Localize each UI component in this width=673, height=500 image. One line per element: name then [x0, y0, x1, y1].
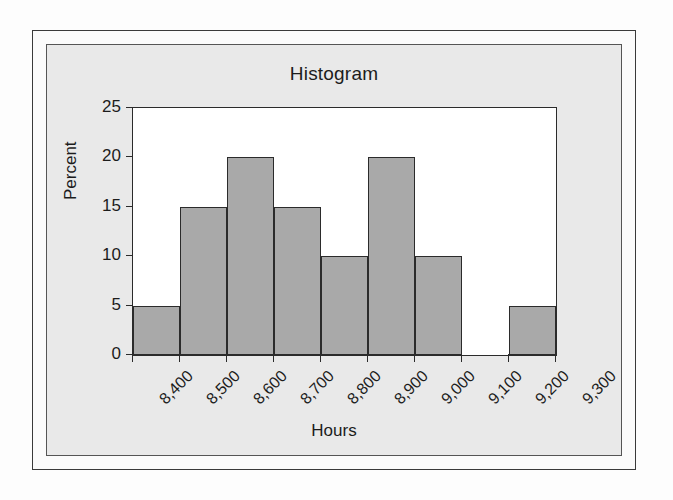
- x-axis-tick: [367, 354, 368, 362]
- x-axis-tick: [414, 354, 415, 362]
- x-axis-tick-label: 8,900: [391, 367, 432, 408]
- histogram-bar: [133, 306, 180, 355]
- x-axis-tick-label: 8,700: [297, 367, 338, 408]
- x-axis-tick-label: 8,600: [250, 367, 291, 408]
- x-axis-tick-label: 9,300: [579, 367, 620, 408]
- histogram-bars: [133, 108, 556, 355]
- plot-area: [132, 107, 557, 356]
- histogram-bar: [368, 157, 415, 355]
- y-axis-tick-label: 10: [81, 245, 121, 265]
- x-axis-tick: [273, 354, 274, 362]
- x-axis-tick: [132, 354, 133, 362]
- x-axis-tick: [320, 354, 321, 362]
- figure-root: Histogram Percent 0510152025 8,4008,5008…: [0, 0, 673, 500]
- x-axis-tick: [461, 354, 462, 362]
- x-axis-tick: [226, 354, 227, 362]
- y-axis-tick-labels: 0510152025: [73, 45, 121, 455]
- histogram-bar: [227, 157, 274, 355]
- figure-outer-frame: Histogram Percent 0510152025 8,4008,5008…: [32, 30, 636, 470]
- histogram-bar: [274, 207, 321, 355]
- y-axis-tick-label: 25: [81, 97, 121, 117]
- y-axis-tick-label: 0: [81, 344, 121, 364]
- histogram-bar: [180, 207, 227, 355]
- x-axis-tick-label: 9,200: [532, 367, 573, 408]
- x-axis-tick-label: 9,000: [438, 367, 479, 408]
- x-axis-tick-label: 8,800: [344, 367, 385, 408]
- histogram-bar: [321, 256, 368, 355]
- histogram-bar: [415, 256, 462, 355]
- x-axis-title: Hours: [47, 421, 621, 441]
- x-axis-tick-label: 9,100: [485, 367, 526, 408]
- x-axis-tick-label: 8,500: [203, 367, 244, 408]
- x-axis-tick: [508, 354, 509, 362]
- x-axis-tick: [179, 354, 180, 362]
- chart-panel: Histogram Percent 0510152025 8,4008,5008…: [46, 44, 622, 456]
- chart-title: Histogram: [47, 63, 621, 85]
- y-axis-tick-label: 20: [81, 146, 121, 166]
- y-axis-tick-label: 5: [81, 295, 121, 315]
- y-axis-tick-label: 15: [81, 196, 121, 216]
- x-axis-tick-label: 8,400: [156, 367, 197, 408]
- histogram-bar: [509, 306, 556, 355]
- x-axis-tick: [555, 354, 556, 362]
